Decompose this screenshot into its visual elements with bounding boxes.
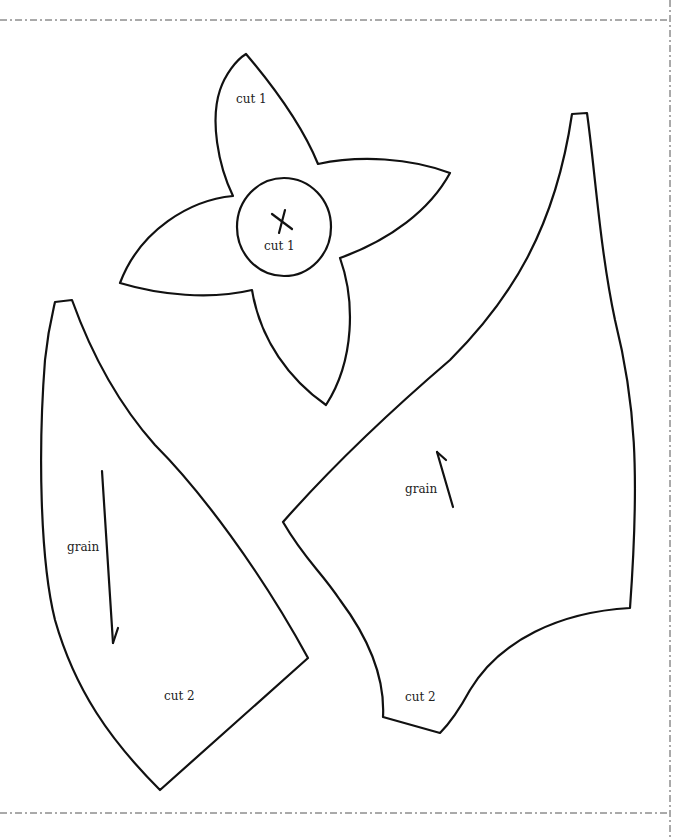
center-cut-label: cut 1 bbox=[264, 239, 295, 253]
left-leaf-grain-label: grain bbox=[67, 540, 99, 554]
grain-arrow-down-icon bbox=[102, 471, 118, 643]
right-leaf-outline bbox=[283, 113, 635, 733]
flower-petals-outline bbox=[120, 54, 450, 405]
pattern-sheet bbox=[0, 0, 680, 840]
x-mark-icon bbox=[272, 210, 292, 233]
right-leaf-grain-label: grain bbox=[405, 482, 437, 496]
grain-arrow-up-icon bbox=[437, 452, 453, 507]
flower-center-outline bbox=[237, 178, 331, 276]
left-leaf-cut-label: cut 2 bbox=[164, 689, 195, 703]
right-leaf-cut-label: cut 2 bbox=[405, 690, 436, 704]
petals-cut-label: cut 1 bbox=[236, 92, 267, 106]
